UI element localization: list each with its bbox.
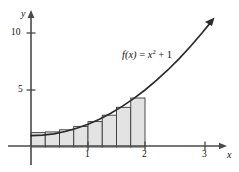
function-constant: + 1 xyxy=(156,49,172,60)
riemann-bar xyxy=(88,122,102,147)
riemann-sum-figure: 10 5 1 2 3 y x f(x) = x2 + 1 xyxy=(0,0,239,172)
x-tick-label-1: 1 xyxy=(85,150,90,160)
riemann-bar xyxy=(102,115,116,147)
y-axis-label: y xyxy=(21,9,25,19)
x-axis-arrowhead xyxy=(219,143,227,149)
x-axis-label: x xyxy=(227,150,231,160)
riemann-bar xyxy=(74,126,88,147)
x-tick-label-3: 3 xyxy=(202,150,207,160)
y-tick-label-10: 10 xyxy=(11,28,21,38)
function-argument: (x) xyxy=(125,49,137,60)
y-axis-arrowhead xyxy=(28,10,35,18)
riemann-rectangles-group xyxy=(31,98,145,147)
x-tick-label-2: 2 xyxy=(142,150,147,160)
riemann-bar xyxy=(131,98,145,147)
riemann-bar xyxy=(117,107,131,147)
y-tick-label-5: 5 xyxy=(18,85,23,95)
function-annotation: f(x) = x2 + 1 xyxy=(122,50,172,61)
equals-sign: = xyxy=(137,49,148,60)
plot-canvas xyxy=(0,0,239,172)
